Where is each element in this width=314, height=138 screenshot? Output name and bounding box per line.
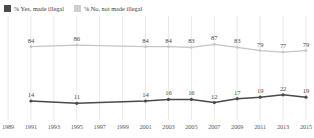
data-label: 79 (257, 41, 263, 48)
data-label: 83 (188, 37, 194, 44)
x-axis-tick: 1999 (117, 123, 129, 130)
plot-svg (0, 16, 314, 120)
data-point (144, 45, 147, 48)
plot-area: 8486848483878379777914111416161217192219 (0, 16, 314, 120)
data-point (282, 51, 285, 54)
data-point (236, 46, 239, 49)
data-point (259, 49, 262, 52)
data-label: 14 (28, 91, 34, 98)
x-axis-tick: 2003 (162, 123, 174, 130)
data-point (30, 45, 33, 48)
data-label: 84 (165, 37, 171, 44)
data-label: 12 (211, 93, 217, 100)
data-label: 83 (234, 37, 240, 44)
data-label: 79 (303, 41, 309, 48)
x-axis-tick: 2011 (254, 123, 266, 130)
data-point (144, 99, 147, 102)
data-label: 19 (257, 87, 263, 94)
data-point (304, 96, 307, 99)
legend-swatch-no (74, 5, 81, 12)
legend-label-no: % No, not made illegal (84, 5, 142, 12)
data-point (236, 97, 239, 100)
data-point (190, 98, 193, 101)
x-axis-tick: 1991 (25, 123, 37, 130)
data-label: 84 (142, 37, 148, 44)
data-point (167, 45, 170, 48)
data-point (213, 43, 216, 46)
data-label: 17 (234, 89, 240, 96)
x-axis-tick: 1993 (48, 123, 60, 130)
data-label: 16 (188, 89, 194, 96)
x-axis: 1989199119931995199719992001200320052007… (0, 120, 314, 138)
x-axis-tick: 2009 (231, 123, 243, 130)
x-axis-tick: 1997 (94, 123, 106, 130)
data-label: 22 (280, 85, 286, 92)
chart-legend: % Yes, made illegal % No, not made illeg… (4, 3, 142, 14)
data-point (213, 101, 216, 104)
x-axis-tick: 2013 (277, 123, 289, 130)
x-axis-tick: 2015 (300, 123, 312, 130)
legend-item-no: % No, not made illegal (74, 5, 142, 12)
data-label: 77 (280, 42, 286, 49)
data-label: 11 (74, 93, 80, 100)
x-axis-tick: 2005 (185, 123, 197, 130)
x-axis-tick: 2001 (139, 123, 151, 130)
legend-item-yes: % Yes, made illegal (4, 5, 64, 12)
data-point (281, 93, 284, 96)
data-point (29, 99, 32, 102)
data-point (259, 96, 262, 99)
data-label: 86 (74, 35, 80, 42)
data-label: 14 (142, 91, 148, 98)
data-label: 16 (165, 89, 171, 96)
data-point (305, 49, 308, 52)
data-label: 84 (28, 37, 34, 44)
gridlines (8, 16, 306, 120)
data-label: 87 (211, 34, 217, 41)
data-point (167, 98, 170, 101)
data-point (75, 44, 78, 47)
x-axis-tick: 1995 (71, 123, 83, 130)
line-chart: % Yes, made illegal % No, not made illeg… (0, 0, 314, 138)
legend-swatch-yes (4, 5, 11, 12)
data-label: 19 (303, 87, 309, 94)
legend-label-yes: % Yes, made illegal (14, 5, 64, 12)
x-axis-tick: 1989 (2, 123, 14, 130)
x-axis-tick: 2007 (208, 123, 220, 130)
data-point (190, 46, 193, 49)
data-point (75, 102, 78, 105)
